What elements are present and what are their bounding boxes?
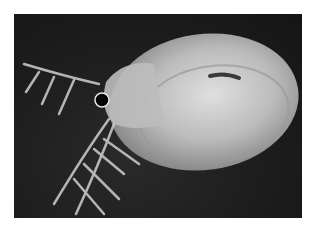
daphnia-illustration	[14, 14, 302, 218]
daphnia-photo	[14, 14, 302, 218]
eye	[95, 93, 109, 107]
head	[104, 63, 164, 128]
